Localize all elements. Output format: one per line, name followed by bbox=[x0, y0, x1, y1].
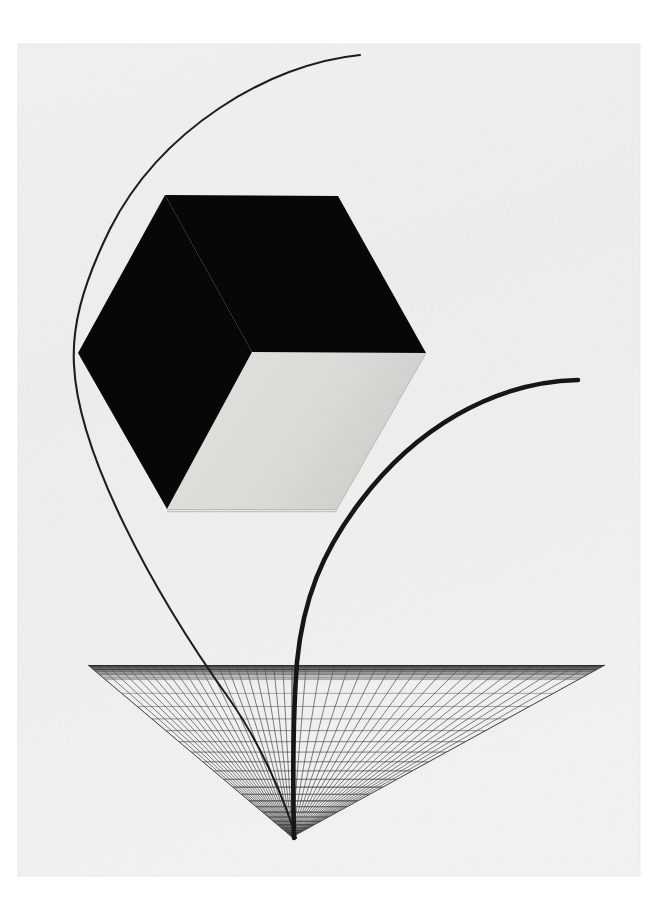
artwork-canvas bbox=[0, 0, 662, 918]
artwork-svg bbox=[0, 0, 662, 918]
horizon-band bbox=[88, 664, 605, 681]
